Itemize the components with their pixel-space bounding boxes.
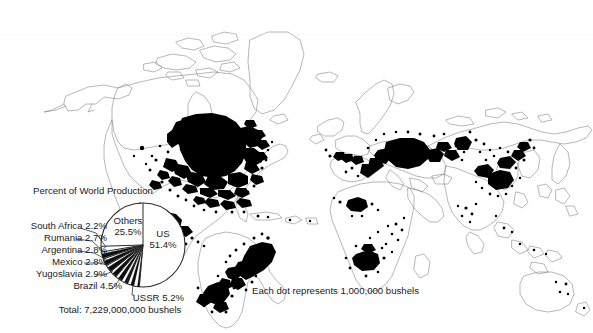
pie-label-us-name: US: [146, 229, 180, 239]
pie-label-rumania: Rumania 2.7%: [0, 233, 107, 243]
pie-label-us-value: 51.4%: [143, 240, 183, 250]
pie-label-others-value: 25.5%: [106, 227, 150, 237]
pie-label-yugoslavia: Yugoslavia 2.9%: [0, 269, 107, 279]
figure-canvas: Percent of World Production South Africa…: [0, 0, 593, 333]
pie-title: Percent of World Production: [33, 186, 153, 196]
pie-label-others-name: Others: [106, 216, 150, 226]
map-caption: Each dot represents 1,000,000 bushels: [252, 286, 419, 296]
pie-total-label: Total: 7,229,000,000 bushels: [0, 305, 240, 315]
pie-label-mexico: Mexico 2.8%: [0, 257, 107, 267]
pie-label-brazil: Brazil 4.5%: [0, 281, 122, 291]
pie-label-south-africa: South Africa 2.2%: [0, 221, 107, 231]
pie-label-argentina: Argentina 2.8%: [0, 245, 107, 255]
pie-label-ussr: USSR 5.2%: [0, 293, 184, 303]
